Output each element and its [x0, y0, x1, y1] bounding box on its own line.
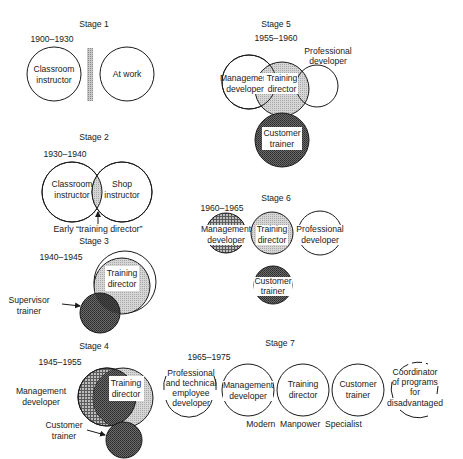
svg-text:Training: Training [257, 224, 288, 234]
arrow-icon [62, 304, 80, 306]
svg-text:director: director [112, 389, 141, 399]
svg-text:Training: Training [267, 73, 298, 83]
svg-text:Management: Management [16, 386, 67, 396]
stage-5: Stage 5 1955–1960 Management developer T… [220, 19, 352, 167]
coordinator-disadvantaged-circle: Coordinator of programs for disadvantage… [387, 362, 443, 418]
svg-text:developer: developer [22, 397, 60, 407]
stage-2: Stage 2 1930–1940 Classroom instructor S… [42, 132, 152, 234]
classroom-instructor-circle: Classroom instructor [27, 47, 81, 101]
svg-text:director: director [268, 84, 297, 94]
svg-text:trainer: trainer [52, 431, 76, 441]
svg-text:Management: Management [201, 224, 252, 234]
svg-text:Customer: Customer [339, 379, 376, 389]
svg-text:and technical: and technical [166, 378, 217, 388]
barrier-bar [87, 48, 93, 101]
arrow-icon [87, 430, 105, 435]
stage-2-title: Stage 2 [79, 132, 109, 142]
svg-text:Professional: Professional [296, 224, 343, 234]
svg-text:employee: employee [172, 388, 209, 398]
stage-1-title: Stage 1 [79, 19, 109, 29]
svg-text:Training: Training [107, 268, 138, 278]
stage-6-years: 1960–1965 [200, 203, 243, 213]
svg-text:Training: Training [288, 379, 319, 389]
svg-text:developer: developer [207, 235, 245, 245]
svg-text:director: director [108, 279, 137, 289]
modern-manpower-specialist-caption: Modern Manpower Specialist [246, 419, 362, 429]
management-developer-circle: Management developer [222, 364, 274, 416]
svg-text:developer: developer [172, 398, 210, 408]
svg-text:trainer: trainer [270, 139, 294, 149]
svg-text:Management: Management [220, 73, 271, 83]
svg-text:Professional: Professional [167, 368, 214, 378]
svg-text:trainer: trainer [17, 306, 41, 316]
training-director-circle: Training director [277, 364, 329, 416]
svg-text:Customer: Customer [254, 276, 291, 286]
svg-text:Supervisor: Supervisor [8, 295, 49, 305]
early-training-director-label: Early “training director” [54, 224, 143, 234]
stage-2-years: 1930–1940 [43, 149, 86, 159]
stage-3-years: 1940–1945 [39, 252, 82, 262]
svg-text:Customer: Customer [263, 128, 300, 138]
svg-text:developer: developer [226, 84, 264, 94]
stage-7-years: 1965–1975 [187, 352, 230, 362]
customer-trainer-circle [106, 422, 142, 458]
at-work-circle: At work [100, 47, 154, 101]
svg-text:instructor: instructor [54, 190, 89, 200]
svg-text:Shop: Shop [112, 179, 132, 189]
stage-7: Stage 7 1965–1975 Professional and techn… [164, 338, 443, 429]
stage-4-years: 1945–1955 [38, 357, 81, 367]
stage-4-title: Stage 4 [79, 341, 109, 351]
stage-5-years: 1955–1960 [254, 33, 297, 43]
svg-text:for: for [410, 387, 420, 397]
stage-1: Stage 1 1900–1930 Classroom instructor A… [27, 19, 154, 101]
svg-text:instructor: instructor [104, 190, 139, 200]
svg-text:Management: Management [223, 380, 274, 390]
stage-6-title: Stage 6 [261, 193, 291, 203]
svg-text:instructor: instructor [36, 75, 71, 85]
svg-text:director: director [289, 390, 318, 400]
svg-text:Classroom: Classroom [51, 179, 92, 189]
svg-text:of programs: of programs [392, 377, 438, 387]
stage-5-title: Stage 5 [261, 19, 291, 29]
stage-3: Stage 3 1940–1945 Training director Supe… [8, 236, 156, 333]
svg-text:Coordinator: Coordinator [393, 367, 438, 377]
svg-text:disadvantaged: disadvantaged [387, 398, 443, 408]
svg-text:developer: developer [301, 235, 339, 245]
stage-3-title: Stage 3 [79, 236, 109, 246]
professional-technical-developer-circle: Professional and technical employee deve… [164, 368, 217, 417]
training-evolution-diagram: Stage 1 1900–1930 Classroom instructor A… [0, 0, 463, 459]
svg-text:trainer: trainer [346, 390, 370, 400]
svg-text:developer: developer [309, 56, 347, 66]
stage-6: Stage 6 1960–1965 Management developer T… [200, 193, 344, 304]
customer-trainer-circle: Customer trainer [332, 364, 384, 416]
stage-1-years: 1900–1930 [30, 34, 73, 44]
svg-text:trainer: trainer [261, 286, 285, 296]
svg-text:Customer: Customer [45, 420, 82, 430]
stage-7-title: Stage 7 [265, 338, 295, 348]
svg-text:Classroom: Classroom [33, 64, 74, 74]
svg-text:developer: developer [229, 391, 267, 401]
svg-text:director: director [258, 235, 287, 245]
svg-text:At work: At work [113, 69, 142, 79]
svg-text:Training: Training [111, 378, 142, 388]
svg-text:Professional: Professional [304, 46, 351, 56]
stage-4: Stage 4 1945–1955 Training director Mana… [16, 341, 153, 458]
